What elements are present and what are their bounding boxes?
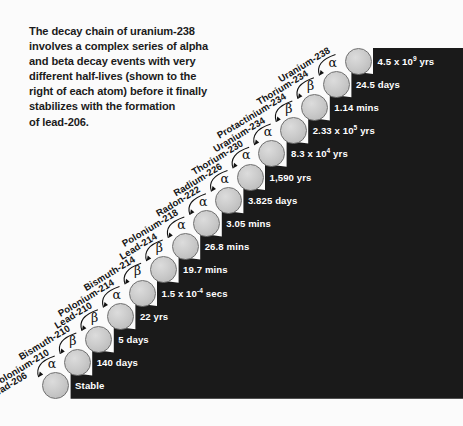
alpha-decay-label: α [242, 149, 250, 162]
beta-decay-label: β [156, 242, 163, 255]
decay-arrowhead [39, 372, 44, 378]
beta-decay-label: β [91, 312, 98, 325]
alpha-decay-label: α [177, 219, 185, 232]
decay-arrowhead [60, 348, 65, 354]
decay-arrowhead [168, 232, 173, 238]
alpha-decay-label: α [48, 358, 56, 371]
alpha-decay-label: α [221, 173, 229, 186]
beta-decay-label: β [69, 335, 76, 348]
decay-chain-diagram: The decay chain of uranium-238 involves … [0, 0, 463, 426]
alpha-decay-label: α [329, 57, 337, 70]
intro-paragraph: The decay chain of uranium-238 involves … [29, 24, 237, 130]
alpha-decay-label: α [113, 289, 121, 302]
decay-arrowhead [125, 279, 130, 285]
beta-decay-label: β [134, 265, 141, 278]
decay-arrowhead [104, 302, 109, 308]
decay-arrowhead [255, 140, 260, 146]
decay-arrowhead [276, 116, 281, 122]
decay-arrowhead [320, 70, 325, 76]
decay-arrowhead [147, 256, 152, 262]
alpha-decay-label: α [199, 196, 207, 209]
decay-arrowhead [233, 163, 238, 169]
decay-arrowhead [190, 209, 195, 215]
decay-arrowhead [82, 325, 87, 331]
decay-arrowhead [298, 93, 303, 99]
decay-arrowhead [212, 186, 217, 192]
beta-decay-label: β [307, 80, 314, 93]
beta-decay-label: β [285, 103, 292, 116]
alpha-decay-label: α [264, 126, 272, 139]
